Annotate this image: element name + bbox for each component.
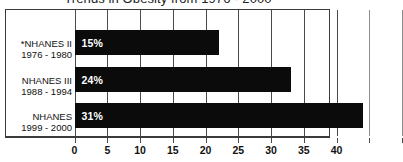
xticklabel-20: 20 — [194, 144, 218, 156]
xtick-15 — [173, 138, 174, 143]
bar-1: 24% — [75, 67, 291, 92]
bar-2: 31% — [75, 103, 363, 128]
xticklabel-15: 15 — [161, 144, 185, 156]
category-label-line1: NHANES III — [6, 75, 72, 86]
xtick-45 — [369, 138, 370, 143]
xtick-10 — [140, 138, 141, 143]
xtick-30 — [271, 138, 272, 143]
category-axis: *NHANES II1976 - 1980NHANES III1988 - 19… — [6, 10, 74, 136]
xtick-5 — [107, 138, 108, 143]
xticklabel-5: 5 — [95, 144, 119, 156]
xticklabel-10: 10 — [128, 144, 152, 156]
xticklabel-40: 40 — [325, 144, 349, 156]
xtick-35 — [304, 138, 305, 143]
category-label-line1: NHANES — [6, 111, 72, 122]
bar-value-label-0: 15% — [82, 37, 104, 49]
category-label-1: NHANES III1988 - 1994 — [6, 75, 72, 97]
category-label-2: NHANES1999 - 2000 — [6, 111, 72, 133]
xticklabel-0: 0 — [63, 144, 87, 156]
category-label-0: *NHANES II1976 - 1980 — [6, 38, 72, 60]
bar-0: 15% — [75, 30, 219, 55]
bar-value-label-1: 24% — [82, 74, 104, 86]
gridline-45 — [369, 10, 370, 136]
category-label-line2: 1976 - 1980 — [6, 49, 72, 60]
category-label-line2: 1999 - 2000 — [6, 122, 72, 133]
category-label-line1: *NHANES II — [6, 38, 72, 49]
xtick-25 — [238, 138, 239, 143]
bar-value-label-2: 31% — [82, 110, 104, 122]
category-label-line2: 1988 - 1994 — [6, 86, 72, 97]
xticklabel-25: 25 — [226, 144, 250, 156]
xtick-0 — [75, 138, 76, 143]
xticklabel-30: 30 — [259, 144, 283, 156]
xticklabel-35: 35 — [292, 144, 316, 156]
xtick-20 — [206, 138, 207, 143]
x-axis-line — [5, 137, 330, 139]
xtick-40 — [337, 138, 338, 143]
